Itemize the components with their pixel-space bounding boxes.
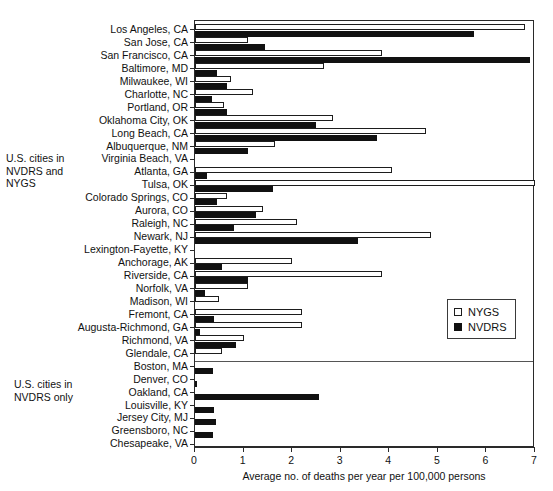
category-tick [190, 68, 194, 69]
bar-nvdrs [195, 83, 227, 89]
bar-nygs [195, 193, 227, 199]
category-tick [190, 107, 194, 108]
x-tick [243, 447, 244, 452]
bar-nygs [195, 219, 297, 225]
x-tick [291, 447, 292, 452]
category-label: San Jose, CA [124, 37, 188, 48]
bar-nvdrs [195, 394, 319, 400]
bar-nygs [195, 296, 219, 302]
bar-nygs [195, 167, 392, 173]
bar-nygs [195, 232, 431, 238]
category-tick [190, 29, 194, 30]
category-label: Albuquerque, NM [106, 141, 188, 152]
group-caption-nvdrs-only: U.S. cities in NVDRS only [14, 378, 86, 403]
category-label: Lexington-Fayette, KY [84, 244, 188, 255]
bar-nvdrs [195, 419, 216, 425]
category-label: Tulsa, OK [142, 179, 188, 190]
category-label: Anchorage, AK [118, 257, 188, 268]
category-tick [190, 94, 194, 95]
bar-nvdrs [195, 31, 474, 37]
bar-nygs [195, 335, 244, 341]
category-label: Milwaukee, WI [120, 76, 188, 87]
bar-nvdrs [195, 342, 236, 348]
clipped-title-strip [0, 0, 553, 5]
category-label: Richmond, VA [122, 335, 188, 346]
x-tick-label: 3 [337, 454, 343, 466]
x-tick-label: 7 [531, 454, 537, 466]
legend-item-nygs: NYGS [454, 304, 507, 319]
category-tick [190, 198, 194, 199]
category-tick [190, 353, 194, 354]
bar-nvdrs [195, 381, 197, 387]
category-label: Greensboro, NC [112, 425, 188, 436]
x-tick [485, 447, 486, 452]
chart-legend: NYGS NVDRS [447, 299, 516, 339]
category-tick [190, 263, 194, 264]
bar-nygs [195, 24, 525, 30]
category-label: Aurora, CO [135, 205, 188, 216]
category-label: Virginia Beach, VA [101, 153, 188, 164]
category-label: Augusta-Richmond, GA [78, 322, 188, 333]
bar-nvdrs [195, 96, 212, 102]
category-tick [190, 172, 194, 173]
category-label: Raleigh, NC [131, 218, 188, 229]
category-label: Louisville, KY [125, 400, 188, 411]
category-tick [190, 42, 194, 43]
bar-nvdrs [195, 238, 358, 244]
plot-area [194, 20, 534, 447]
category-label: Norfolk, VA [136, 283, 188, 294]
bar-nygs [195, 309, 302, 315]
bar-nygs [195, 115, 333, 121]
group-divider [195, 361, 533, 362]
bar-nvdrs [195, 368, 213, 374]
bar-nygs [195, 128, 426, 134]
category-tick [190, 431, 194, 432]
category-tick [190, 418, 194, 419]
category-tick [190, 301, 194, 302]
category-label: Oklahoma City, OK [99, 115, 188, 126]
x-tick-label: 5 [434, 454, 440, 466]
category-label: Madison, WI [130, 296, 188, 307]
bar-nvdrs [195, 135, 377, 141]
category-label: Jersey City, MJ [117, 412, 188, 423]
bar-nygs [195, 76, 231, 82]
bar-nygs [195, 89, 253, 95]
category-tick [190, 379, 194, 380]
category-tick [190, 340, 194, 341]
bar-nvdrs [195, 329, 200, 335]
bar-nvdrs [195, 148, 248, 154]
category-tick [190, 366, 194, 367]
bar-nygs [195, 63, 324, 69]
bar-nvdrs [195, 70, 217, 76]
bar-nvdrs [195, 290, 205, 296]
category-label: Long Beach, CA [112, 128, 188, 139]
bar-nvdrs [195, 57, 530, 63]
bar-nygs [195, 283, 248, 289]
category-label: San Francisco, CA [100, 50, 188, 61]
bar-nygs [195, 37, 248, 43]
category-tick [190, 327, 194, 328]
category-tick [190, 211, 194, 212]
category-tick [190, 146, 194, 147]
legend-item-nvdrs: NVDRS [454, 319, 507, 334]
category-tick [190, 81, 194, 82]
category-label: Los Angeles, CA [110, 24, 188, 35]
bar-nygs [195, 322, 302, 328]
group-caption-nvdrs-and-nygs: U.S. cities in NVDRS and NYGS [6, 152, 78, 190]
bar-nygs [195, 180, 535, 186]
category-tick [190, 392, 194, 393]
bar-nygs [195, 271, 382, 277]
category-label: Riverside, CA [124, 270, 188, 281]
bar-nygs [195, 258, 292, 264]
category-label: Colorado Springs, CO [85, 192, 188, 203]
open-square-icon [454, 308, 462, 316]
bar-chart-figure: U.S. cities in NVDRS and NYGS U.S. citie… [0, 0, 553, 491]
category-tick [190, 224, 194, 225]
x-tick-label: 1 [240, 454, 246, 466]
category-tick [190, 444, 194, 445]
bar-nvdrs [195, 264, 222, 270]
x-tick [534, 447, 535, 452]
x-tick [388, 447, 389, 452]
bar-nvdrs [195, 109, 227, 115]
category-label: Chesapeake, VA [110, 438, 188, 449]
